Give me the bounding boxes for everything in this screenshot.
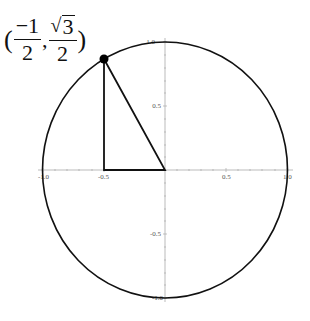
- open-paren: (: [4, 27, 13, 53]
- reference-triangle: [104, 59, 165, 170]
- x-fraction: −1 2: [14, 15, 41, 64]
- point-coordinate-label: ( −1 2 , √ 3 2 ): [4, 14, 86, 65]
- y-tick-label: 0.5: [152, 102, 161, 110]
- x-tick-label: 0.5: [222, 173, 231, 181]
- radicand: 3: [62, 15, 75, 38]
- y-tick-label: -0.5: [150, 230, 162, 238]
- close-paren: ): [78, 27, 87, 53]
- x-tick-label: -1.0: [38, 173, 50, 181]
- y-numerator: √ 3: [49, 14, 77, 41]
- x-denominator: 2: [22, 40, 33, 64]
- y-fraction: √ 3 2: [49, 14, 77, 65]
- y-denominator: 2: [57, 41, 68, 65]
- sqrt: √ 3: [51, 15, 75, 38]
- comma: ,: [42, 27, 48, 53]
- point-marker: [100, 55, 109, 64]
- x-tick-label: -0.5: [98, 173, 110, 181]
- x-numerator: −1: [14, 15, 41, 40]
- radical-sign: √: [51, 15, 62, 35]
